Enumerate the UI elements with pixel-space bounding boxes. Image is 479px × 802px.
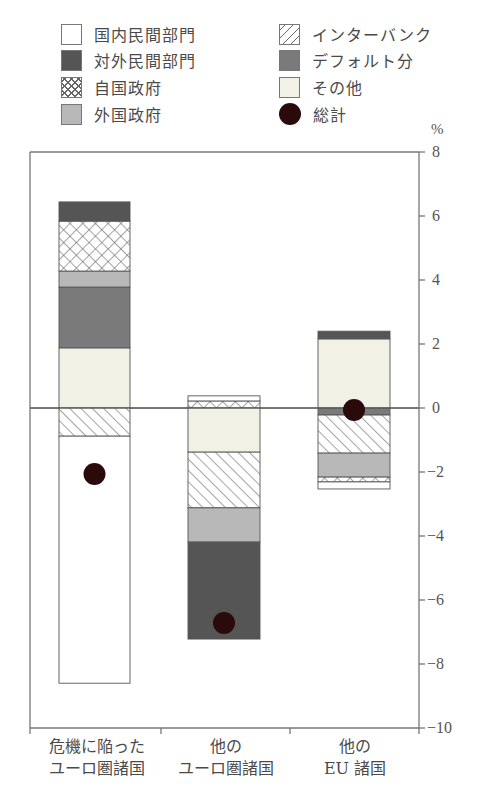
stacked-bar-chart <box>0 0 479 802</box>
category-label-line: ユーロ圏諸国 <box>161 758 291 780</box>
total-dot-icon <box>343 399 365 421</box>
bar-segment-lightgrey <box>318 453 390 477</box>
y-tick-label: 4 <box>432 271 440 289</box>
bars <box>30 202 419 683</box>
bar-segment-cream <box>318 339 390 408</box>
total-dot-icon <box>213 612 235 634</box>
category-label-line: 他の <box>290 736 420 758</box>
category-label-crisis-euro: 危機に陥った ユーロ圏諸国 <box>32 736 162 780</box>
bar-stack <box>188 396 260 639</box>
bar-segment-dark <box>318 331 390 339</box>
bar-segment-crosshatch <box>318 477 390 482</box>
total-dot-icon <box>84 463 106 485</box>
bar-segment-white <box>318 482 390 489</box>
bar-segment-cream <box>59 348 130 408</box>
bar-segment-dark <box>59 202 130 221</box>
category-label-line: EU 諸国 <box>290 758 420 780</box>
bar-segment-white <box>188 396 260 401</box>
y-tick-label: −8 <box>427 655 444 673</box>
bar-segment-cream <box>188 408 260 452</box>
bar-segment-midgrey <box>59 287 130 348</box>
category-label-line: ユーロ圏諸国 <box>32 758 162 780</box>
y-axis-unit: % <box>431 121 444 138</box>
y-tick-label: −6 <box>427 591 444 609</box>
y-tick-label: 8 <box>432 143 440 161</box>
category-label-line: 危機に陥った <box>32 736 162 758</box>
y-tick-label: 0 <box>432 399 440 417</box>
category-label-line: 他の <box>161 736 291 758</box>
bar-segment-crosshatch <box>188 401 260 408</box>
y-tick-label: −4 <box>427 527 444 545</box>
y-tick-label: 6 <box>432 207 440 225</box>
bar-segment-diagonal <box>188 452 260 508</box>
bar-segment-diagonal <box>59 408 130 436</box>
y-tick-label: −2 <box>427 463 444 481</box>
bar-segment-lightgrey <box>188 508 260 542</box>
bar-segment-crosshatch <box>59 221 130 271</box>
y-tick-label: −10 <box>427 719 452 737</box>
bar-segment-lightgrey <box>59 271 130 287</box>
bar-stack <box>59 202 130 683</box>
y-tick-label: 2 <box>432 335 440 353</box>
category-label-other-eu: 他の EU 諸国 <box>290 736 420 780</box>
category-label-other-euro: 他の ユーロ圏諸国 <box>161 736 291 780</box>
